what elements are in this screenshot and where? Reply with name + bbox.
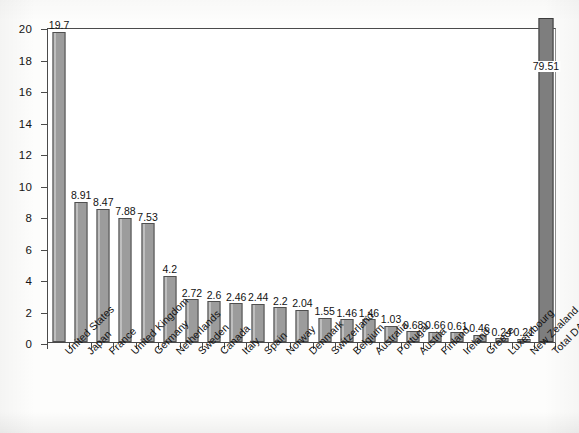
- bar-slot: 8.47: [92, 27, 114, 342]
- y-axis-tick: 16: [41, 92, 48, 93]
- x-axis-label-total-dac: Total DAC: [550, 349, 558, 357]
- bar-slot: 7.53: [137, 27, 159, 342]
- bar-value-label: 79.51: [532, 61, 560, 72]
- y-axis-tick-label: 0: [25, 339, 32, 351]
- x-axis-label-austria: Austria: [417, 349, 425, 357]
- bar-value-label: 4.2: [162, 264, 177, 275]
- bar-slot: 19.7: [48, 27, 70, 342]
- x-axis-label-portugal: Portugal: [395, 349, 403, 357]
- bar-slot: 1.46: [358, 27, 380, 342]
- x-axis-label-switzerland: Switzerland: [329, 349, 337, 357]
- bar-slot: 0.61: [446, 27, 468, 342]
- x-axis-label-norway: Norway: [284, 349, 292, 357]
- bar-slot: 1.03: [380, 27, 402, 342]
- y-axis-tick-label: 4: [25, 276, 32, 288]
- y-axis-tick-label: 2: [25, 308, 32, 320]
- y-axis-tick-label: 16: [19, 87, 32, 99]
- bar-slot: 2.46: [225, 27, 247, 342]
- x-axis-label-ireland: Ireland: [461, 349, 469, 357]
- x-axis-label-australia: Australia: [373, 349, 381, 357]
- y-axis-tick: 12: [41, 155, 48, 156]
- bar-slot: 0.66: [424, 27, 446, 342]
- x-axis-label-netherlands: Netherlands: [174, 349, 182, 357]
- bar-united-states[interactable]: 19.7: [53, 32, 66, 342]
- bar-slot: 0.24: [491, 27, 513, 342]
- bar-slot: 1.55: [314, 27, 336, 342]
- x-axis-label-denmark: Denmark: [307, 349, 315, 357]
- x-axis-label-canada: Canada: [218, 349, 226, 357]
- y-axis-tick-label: 20: [19, 24, 32, 36]
- x-axis-label-united-kingdom: United Kingdom: [129, 349, 137, 357]
- bars-layer: 19.78.918.477.887.534.22.722.62.462.442.…: [48, 27, 555, 342]
- bar-slot: 2.6: [203, 27, 225, 342]
- x-axis-label-italy: Italy: [240, 349, 248, 357]
- bar-value-label: 7.88: [115, 206, 135, 217]
- bar-value-label: 2.6: [207, 290, 222, 301]
- bar-slot: 0.46: [468, 27, 490, 342]
- y-axis-tick: 14: [41, 124, 48, 125]
- y-axis-tick: 10: [41, 187, 48, 188]
- bar-slot: 0.21: [513, 27, 535, 342]
- y-axis-tick: 4: [41, 281, 48, 282]
- x-axis-label-new-zealand: New Zealand: [528, 349, 536, 357]
- bar-value-label: 2.46: [226, 292, 246, 303]
- y-axis-tick-label: 6: [25, 245, 32, 257]
- bar-value-label: 2.04: [292, 298, 312, 309]
- y-axis-tick: 2: [41, 313, 48, 314]
- bar-slot: 1.46: [336, 27, 358, 342]
- bar-value-label: 7.53: [137, 212, 157, 223]
- y-axis-tick-label: 18: [19, 56, 32, 68]
- bar-slot: 8.91: [70, 27, 92, 342]
- bar-slot: 2.44: [247, 27, 269, 342]
- x-axis-label-greece: Greece: [484, 349, 492, 357]
- bar-united-kingdom[interactable]: 7.88: [119, 218, 132, 342]
- y-axis-tick: 8: [41, 218, 48, 219]
- x-axis-label-luxembourg: Luxembourg: [506, 349, 514, 357]
- bar-chart: Net ODA In 2004 02468101214161820 19.78.…: [0, 0, 579, 433]
- bar-value-label: 8.91: [71, 190, 91, 201]
- x-axis-label-finland: Finland: [439, 349, 447, 357]
- y-axis-tick-label: 10: [19, 182, 32, 194]
- x-axis-label-japan: Japan: [85, 349, 93, 357]
- bar-value-label: 2.2: [273, 296, 288, 307]
- x-axis-labels: United StatesJapanFranceUnited KingdomGe…: [47, 349, 556, 433]
- bar-slot: 4.2: [159, 27, 181, 342]
- bar-value-label: 2.44: [248, 292, 268, 303]
- x-axis-label-france: France: [107, 349, 115, 357]
- x-axis-label-germany: Germany: [152, 349, 160, 357]
- bar-value-label: 1.55: [314, 306, 334, 317]
- bar-japan[interactable]: 8.91: [75, 202, 88, 342]
- bar-slot: 79.51: [535, 27, 557, 342]
- x-axis-label-spain: Spain: [262, 349, 270, 357]
- y-axis-tick-label: 8: [25, 213, 32, 225]
- x-axis-label-sweden: Sweden: [196, 349, 204, 357]
- y-axis-tick-label: 14: [19, 119, 32, 131]
- x-axis-label-belgium: Belgium: [351, 349, 359, 357]
- bar-value-label: 1.46: [337, 308, 357, 319]
- bar-slot: 2.72: [181, 27, 203, 342]
- y-axis-tick: 18: [41, 61, 48, 62]
- bar-value-label: 19.7: [49, 20, 69, 31]
- bar-slot: 0.68: [402, 27, 424, 342]
- bar-slot: 2.2: [269, 27, 291, 342]
- y-axis-tick: 6: [41, 250, 48, 251]
- y-axis-tick-label: 12: [19, 150, 32, 162]
- y-axis-tick: 20: [41, 29, 48, 30]
- x-axis-label-united-states: United States: [63, 349, 71, 357]
- plot-area: 02468101214161820 19.78.918.477.887.534.…: [47, 28, 556, 343]
- bar-slot: 2.04: [291, 27, 313, 342]
- bar-value-label: 8.47: [93, 197, 113, 208]
- bar-total-dac[interactable]: 79.51: [538, 18, 553, 342]
- bar-slot: 7.88: [114, 27, 136, 342]
